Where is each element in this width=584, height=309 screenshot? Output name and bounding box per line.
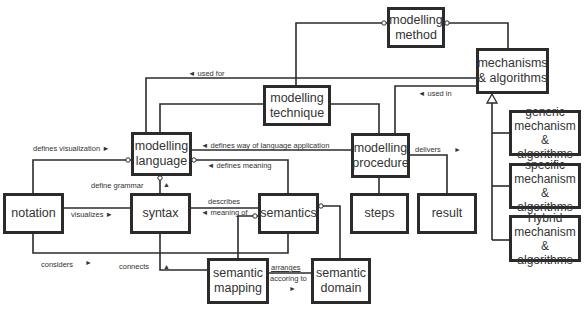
edge-label-considers: considers <box>41 260 73 269</box>
node-modelling-method: modelling method <box>387 7 445 48</box>
edge-arrow-define-grammar: ▲ <box>163 180 170 189</box>
edge-label-describes: describes <box>208 197 240 206</box>
node-modelling-procedure: modelling procedure <box>351 133 410 178</box>
edge-label-defines-way: ◄ defines way of language application <box>201 141 329 150</box>
edge-label-used-in: ◄ used in <box>418 89 452 98</box>
node-steps: steps <box>350 193 409 234</box>
edge-label-delivers: delivers <box>415 145 441 154</box>
edge-label-according-to: accoring to <box>270 274 307 283</box>
node-generic-mechanism: generic mechanism & algorithms <box>509 110 581 156</box>
edge-label-used-for: ◄ used for <box>188 69 225 78</box>
node-syntax: syntax <box>130 193 191 234</box>
node-semantics: semantics <box>258 193 319 234</box>
edge-arrow-delivers: ► <box>454 145 461 154</box>
edge-label-arranges: arranges <box>271 263 301 272</box>
node-mechanisms-algorithms: mechanisms & algorithms <box>476 48 549 94</box>
node-specific-mechanism: specific mechanism & algorithms <box>509 163 581 209</box>
node-modelling-technique: modelling technique <box>263 85 331 126</box>
edge-label-define-grammar: define grammar <box>91 181 144 190</box>
node-notation: notation <box>3 193 64 234</box>
node-semantic-domain: semantic domain <box>311 258 371 304</box>
node-hybrid-mechanism: Hybrid mechanism & algorithms <box>509 215 581 262</box>
node-modelling-language: modelling language <box>131 132 192 176</box>
edge-label-defines-meaning: ◄ defines meaning <box>207 161 272 170</box>
node-semantic-mapping: semantic mapping <box>207 258 269 304</box>
edge-label-meaning-of: ◄ meaning of <box>201 208 248 217</box>
edge-arrow-considers: ► <box>85 258 92 267</box>
edge-label-visualizes: visualizes ► <box>71 210 113 219</box>
edge-arrow-arranges: ► <box>289 284 296 293</box>
node-result: result <box>417 193 477 234</box>
edge-label-defines-visualization: defines visualization ► <box>33 144 110 153</box>
edge-label-connects: connects <box>119 262 149 271</box>
edge-arrow-connects: ▲ <box>163 262 170 271</box>
